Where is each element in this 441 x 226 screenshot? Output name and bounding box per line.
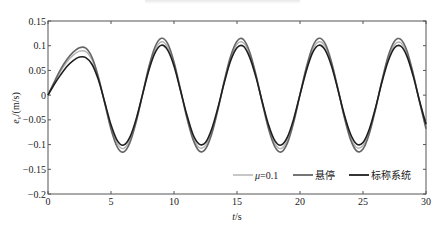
legend: μ=0.1 悬停 标称系统	[233, 169, 411, 181]
y-tick-label: −0.1	[28, 139, 46, 150]
y-tick-label: 0.15	[29, 16, 47, 27]
svg-text:标称系统: 标称系统	[371, 169, 411, 181]
x-axis-label: t/s	[232, 211, 242, 222]
x-tick-label: 10	[169, 196, 179, 207]
legend-item-hover: 悬停	[293, 169, 335, 181]
x-tick-label: 25	[358, 196, 368, 207]
series-hover	[48, 38, 426, 152]
y-tick-label: −0.05	[23, 114, 46, 125]
legend-item-mu: μ=0.1	[233, 170, 278, 181]
svg-text:悬停: 悬停	[315, 169, 335, 181]
data-series	[48, 38, 426, 152]
axis-ticks: 051015202530−0.2−0.15−0.1−0.0500.050.10.…	[23, 16, 431, 208]
line-chart: 051015202530−0.2−0.15−0.1−0.0500.050.10.…	[0, 0, 441, 226]
x-tick-label: 30	[421, 196, 431, 207]
svg-text:μ=0.1: μ=0.1	[254, 170, 278, 181]
x-tick-label: 15	[232, 196, 242, 207]
y-tick-label: 0	[41, 90, 46, 101]
y-axis-label: ev/(m/s)	[10, 92, 23, 123]
legend-item-nominal: 标称系统	[349, 169, 411, 181]
x-tick-label: 5	[109, 196, 114, 207]
y-tick-label: −0.15	[23, 164, 46, 175]
y-tick-label: 0.1	[34, 40, 47, 51]
y-tick-label: 0.05	[29, 65, 47, 76]
y-tick-label: −0.2	[28, 189, 46, 200]
x-tick-label: 20	[295, 196, 305, 207]
series-nominal	[48, 45, 426, 145]
x-tick-label: 0	[46, 196, 51, 207]
